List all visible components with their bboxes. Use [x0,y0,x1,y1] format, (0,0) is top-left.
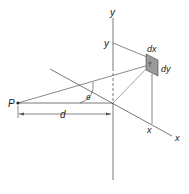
y-coord-label: y [103,38,110,49]
dx-label: dx [147,44,157,54]
ray-origin-to-element [113,66,149,103]
dy-label: dy [161,64,171,74]
d-arrow-right [106,113,111,116]
theta-label: θ [86,93,91,102]
x-coord-label: x [146,125,152,135]
geometry-diagram: y y dx dy P θ d x x [0,0,189,194]
x-axis [50,69,172,136]
x-axis-label: x [174,133,180,143]
ray-p-to-element [18,65,149,103]
area-element [146,54,158,76]
y-projection-line [113,43,147,57]
y-axis-label: y [109,7,116,18]
d-arrow-left [19,113,24,116]
point-p-label: P [8,98,15,109]
d-label: d [60,109,66,120]
